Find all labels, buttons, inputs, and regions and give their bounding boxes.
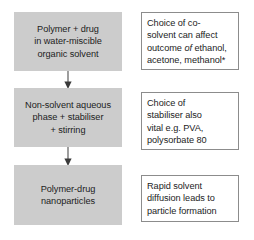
process-line: + stirring [50, 125, 85, 135]
annotation-box-solvent-diffusion: Rapid solventdiffusion leads toparticle … [141, 175, 239, 222]
annotation-line: Rapid solvent [147, 181, 202, 191]
annotation-line: acetone, methanol* [147, 55, 225, 65]
annotation-line: Choice of [147, 98, 185, 108]
annotation-line: particle formation [147, 206, 217, 216]
arrow-stage2-to-stage3 [56, 147, 80, 166]
down-arrow-icon [56, 71, 80, 89]
process-box-text: Non-solvent aqueousphase + stabiliser+ s… [25, 99, 111, 136]
process-line: Polymer + drug [37, 24, 99, 34]
process-box-polymer-drug-solvent: Polymer + drugin water-miscibleorganic s… [14, 12, 122, 71]
annotation-line: solvent can affect [147, 30, 217, 40]
down-arrow-icon [56, 147, 80, 166]
annotation-box-co-solvent: Choice of co-solvent can affectoutcome o… [141, 12, 239, 70]
annotation-box-stabiliser: Choice ofstabiliser alsovital e.g. PVA,p… [141, 92, 239, 150]
process-box-text: Polymer-drugnanoparticles [41, 183, 96, 207]
annotation-line: vital e.g. PVA, [147, 123, 203, 133]
process-line: phase + stabiliser [33, 112, 104, 122]
process-line: in water-miscible [34, 36, 102, 46]
process-line: Polymer-drug [41, 184, 96, 194]
annotation-line: stabiliser also [147, 110, 202, 120]
process-box-aqueous-phase: Non-solvent aqueousphase + stabiliser+ s… [14, 88, 122, 147]
annotation-line: polysorbate 80 [147, 135, 207, 145]
annotation-line: diffusion leads to [147, 193, 215, 203]
arrow-stage1-to-stage2 [56, 71, 80, 89]
annotation-box-text: Rapid solventdiffusion leads toparticle … [147, 180, 234, 217]
annotation-box-text: Choice of co-solvent can affectoutcome o… [147, 17, 234, 66]
process-line: organic solvent [37, 49, 98, 59]
process-box-nanoparticles: Polymer-drugnanoparticles [14, 165, 122, 225]
annotation-line-with-italic: outcome of ethanol, [147, 43, 227, 53]
process-line: Non-solvent aqueous [25, 100, 111, 110]
annotation-box-text: Choice ofstabiliser alsovital e.g. PVA,p… [147, 97, 234, 146]
flowchart-diagram: Polymer + drugin water-miscibleorganic s… [0, 0, 254, 240]
process-line: nanoparticles [41, 196, 95, 206]
process-box-text: Polymer + drugin water-miscibleorganic s… [34, 23, 102, 60]
italic-word: of [184, 43, 192, 53]
annotation-line: Choice of co- [147, 18, 200, 28]
